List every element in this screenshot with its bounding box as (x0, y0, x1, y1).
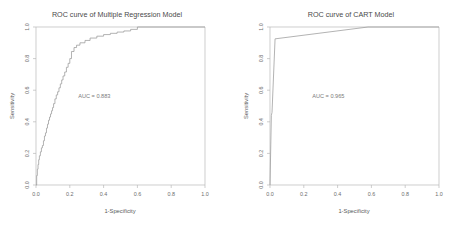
y-axis-title-left: Sensitivity (9, 93, 15, 119)
y-tick-label: 0.0 (24, 181, 30, 189)
x-tick-label: 0.4 (334, 191, 342, 197)
plot-title-right: ROC curve of CART Model (308, 10, 395, 19)
x-tick-label: 1.0 (201, 191, 209, 197)
y-tick-marks-right (267, 27, 270, 185)
roc-curve-right (270, 27, 439, 185)
y-tick-label: 1.0 (258, 23, 264, 31)
x-tick-label: 0.0 (266, 191, 274, 197)
y-tick-labels-left: 0.0 0.2 0.4 0.6 0.8 1.0 (24, 23, 30, 189)
x-tick-labels-right: 0.0 0.2 0.4 0.6 0.8 1.0 (266, 191, 443, 197)
y-tick-label: 0.0 (258, 181, 264, 189)
x-tick-label: 1.0 (435, 191, 443, 197)
y-tick-label: 0.2 (258, 150, 264, 158)
x-axis-title-right: 1-Specificity (338, 208, 369, 214)
plot-frame-left (36, 27, 205, 185)
auc-annotation-left: AUC = 0.883 (78, 93, 110, 99)
x-tick-label: 0.2 (300, 191, 308, 197)
y-tick-label: 0.8 (24, 55, 30, 63)
x-tick-labels-left: 0.0 0.2 0.4 0.6 0.8 1.0 (32, 191, 209, 197)
x-axis-title-left: 1-Specificity (104, 208, 135, 214)
panel-cart: ROC curve of CART Model 0.0 0.2 0.4 0.6 … (234, 0, 468, 234)
x-tick-label: 0.8 (401, 191, 409, 197)
auc-annotation-right: AUC = 0.965 (312, 93, 344, 99)
x-tick-marks-right (270, 185, 439, 188)
y-axis-title-right: Sensitivity (243, 93, 249, 119)
panel-multiple-regression: ROC curve of Multiple Regression Model 0… (0, 0, 234, 234)
x-tick-label: 0.6 (134, 191, 142, 197)
y-tick-label: 0.4 (258, 118, 264, 126)
x-tick-label: 0.0 (32, 191, 40, 197)
y-tick-labels-right: 0.0 0.2 0.4 0.6 0.8 1.0 (258, 23, 264, 189)
x-tick-label: 0.6 (368, 191, 376, 197)
y-tick-label: 0.6 (258, 86, 264, 94)
roc-curve-left (36, 27, 205, 185)
x-tick-label: 0.8 (167, 191, 175, 197)
plot-title-left: ROC curve of Multiple Regression Model (52, 10, 183, 19)
y-tick-label: 1.0 (24, 23, 30, 31)
y-tick-label: 0.2 (24, 150, 30, 158)
axes-left: 0.0 0.2 0.4 0.6 0.8 1.0 0.0 0.2 0.4 0.6 … (9, 23, 209, 214)
axes-right: 0.0 0.2 0.4 0.6 0.8 1.0 0.0 0.2 0.4 0.6 … (243, 23, 443, 214)
plot-canvas-left: ROC curve of Multiple Regression Model 0… (0, 0, 234, 234)
roc-figure: ROC curve of Multiple Regression Model 0… (0, 0, 468, 234)
x-tick-label: 0.4 (100, 191, 108, 197)
x-tick-label: 0.2 (66, 191, 74, 197)
plot-frame-right (270, 27, 439, 185)
y-tick-label: 0.8 (258, 55, 264, 63)
x-tick-marks-left (36, 185, 205, 188)
y-tick-marks-left (33, 27, 36, 185)
y-tick-label: 0.6 (24, 86, 30, 94)
y-tick-label: 0.4 (24, 118, 30, 126)
plot-canvas-right: ROC curve of CART Model 0.0 0.2 0.4 0.6 … (234, 0, 468, 234)
